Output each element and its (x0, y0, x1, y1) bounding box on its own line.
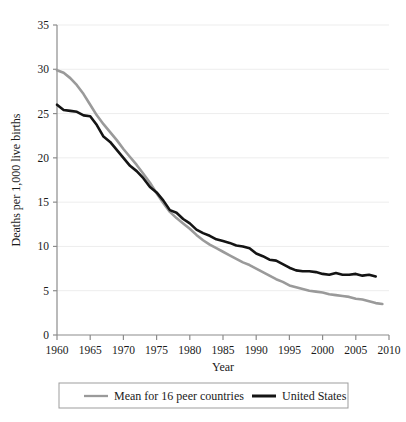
x-tick-label-2005: 2005 (344, 344, 367, 356)
y-tick-label-35: 35 (38, 19, 50, 31)
y-tick-label-0: 0 (43, 329, 49, 341)
legend: Mean for 16 peer countriesUnited States (59, 383, 348, 408)
legend-entries-group: Mean for 16 peer countriesUnited States (84, 389, 347, 403)
infant-mortality-line-chart: 05101520253035 1960196519701975198019851… (0, 0, 406, 422)
y-tick-label-10: 10 (38, 240, 50, 252)
x-tick-label-1965: 1965 (79, 344, 102, 356)
y-axis-title: Deaths per 1,000 live births (9, 113, 23, 246)
y-tick-label-30: 30 (38, 63, 50, 75)
x-tick-label-1960: 1960 (46, 344, 69, 356)
x-tick-label-1985: 1985 (212, 344, 235, 356)
y-tick-label-20: 20 (38, 152, 50, 164)
x-axis-title: Year (212, 360, 234, 374)
y-tick-label-15: 15 (38, 196, 50, 208)
x-tick-label-1980: 1980 (178, 344, 201, 356)
chart-canvas: 05101520253035 1960196519701975198019851… (0, 0, 406, 422)
y-tick-label-25: 25 (38, 108, 50, 120)
x-tick-label-2000: 2000 (311, 344, 334, 356)
legend-label-united-states: United States (282, 389, 347, 403)
y-tick-label-5: 5 (43, 285, 49, 297)
x-tick-label-1970: 1970 (112, 344, 135, 356)
x-tick-label-2010: 2010 (378, 344, 401, 356)
x-tick-label-1995: 1995 (278, 344, 301, 356)
x-axis-tick-labels: 1960196519701975198019851990199520002005… (46, 344, 401, 356)
legend-label-peer-countries: Mean for 16 peer countries (114, 389, 244, 403)
x-tick-label-1990: 1990 (245, 344, 268, 356)
x-tick-label-1975: 1975 (145, 344, 168, 356)
chart-background (0, 0, 406, 422)
